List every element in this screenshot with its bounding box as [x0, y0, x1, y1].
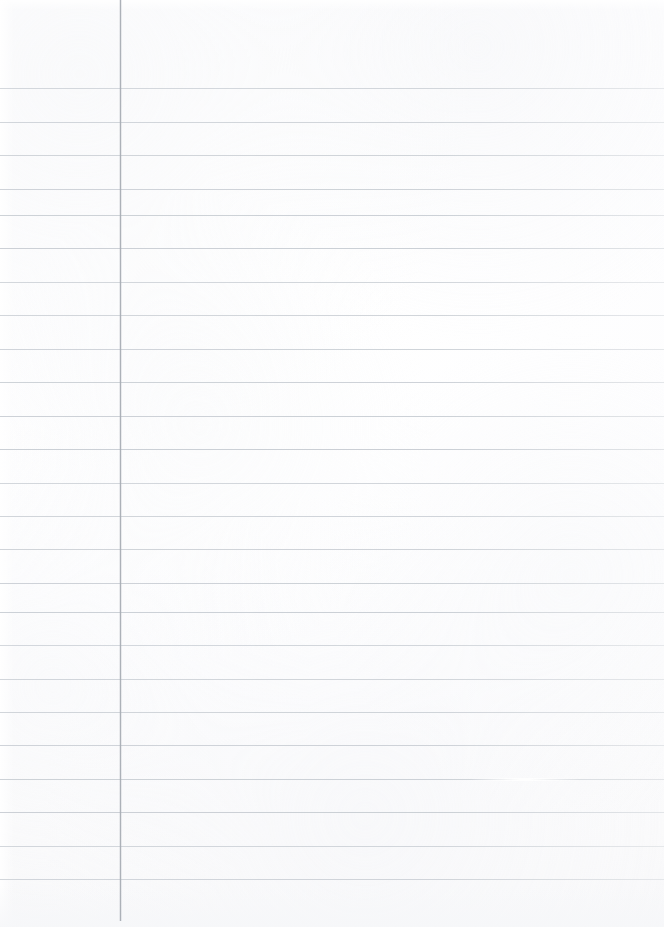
ruled-line [0, 315, 664, 316]
ruled-line [0, 612, 664, 613]
ruled-line [0, 483, 664, 484]
ruled-line [0, 745, 664, 746]
ruled-line [0, 122, 664, 123]
ruled-line [0, 382, 664, 383]
ruled-line [0, 215, 664, 216]
ruled-line [0, 812, 664, 813]
ruled-line [0, 449, 664, 450]
ruled-line [0, 155, 664, 156]
ruled-line [0, 679, 664, 680]
ruled-line [0, 282, 664, 283]
ruled-line [0, 88, 664, 89]
ruled-line [0, 349, 664, 350]
ruled-line [0, 583, 664, 584]
ruled-line [0, 248, 664, 249]
ruled-line [0, 549, 664, 550]
ruled-line [0, 712, 664, 713]
ruled-line [0, 416, 664, 417]
margin-rule [120, 0, 121, 921]
paper-background [0, 0, 664, 927]
ruled-line [0, 779, 664, 780]
ruled-line [0, 189, 664, 190]
ruled-line [0, 645, 664, 646]
scanned-page [0, 0, 664, 927]
ruled-line [0, 516, 664, 517]
ruled-line [0, 879, 664, 880]
ruled-line [0, 846, 664, 847]
